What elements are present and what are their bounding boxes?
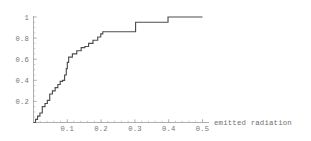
y-axis-tick-labels: 0.20.40.60.81 [15,14,29,106]
x-tick-label: 0.2 [94,125,108,133]
x-tick-label: 0.4 [162,125,176,133]
ecdf-step-curve [34,17,203,123]
x-tick-label: 0.1 [61,125,75,133]
x-axis-tick-labels: 0.10.20.30.40.5 [61,125,210,133]
chart-container: 0.10.20.30.40.5 0.20.40.60.81 emitted ra… [0,0,311,141]
x-tick-label: 0.3 [128,125,142,133]
y-tick-label: 0.2 [15,98,29,106]
ecdf-step-plot: 0.10.20.30.40.5 0.20.40.60.81 emitted ra… [0,0,311,141]
y-axis-major-ticks [34,17,37,101]
y-tick-label: 0.6 [15,56,29,64]
y-tick-label: 0.8 [15,35,29,43]
y-tick-label: 0.4 [15,77,29,85]
x-axis-title: emitted radiation [214,119,292,127]
x-tick-label: 0.5 [196,125,210,133]
y-tick-label: 1 [24,14,29,22]
